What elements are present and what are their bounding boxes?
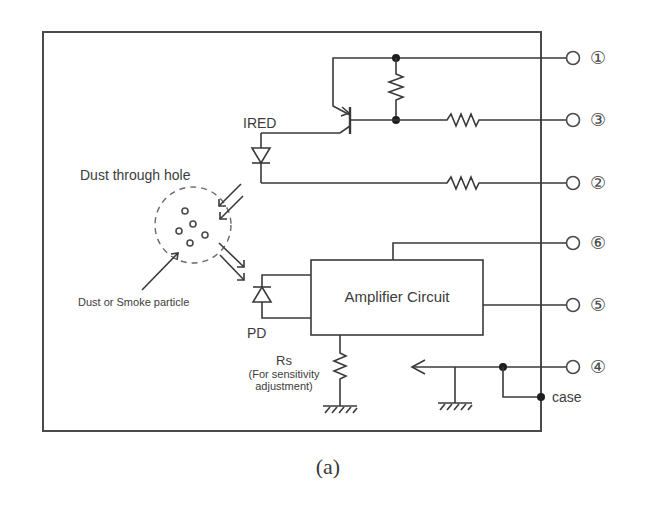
amplifier-label: Amplifier Circuit xyxy=(344,288,450,305)
particle-icon xyxy=(176,228,182,234)
terminal-pin-1[interactable] xyxy=(567,52,580,65)
rs-note-line1: (For sensitivity xyxy=(249,368,320,380)
light-in-arrow-icon xyxy=(219,184,243,219)
rs-note-line2: adjustment) xyxy=(255,380,312,392)
terminal-pin-4[interactable] xyxy=(567,361,580,374)
terminals: ① ③ ② ⑥ ⑤ ④ xyxy=(567,47,607,377)
ground-icon xyxy=(438,403,472,410)
particle-icon xyxy=(182,208,188,214)
particle-pointer-arrow-icon xyxy=(142,253,178,290)
terminal-pin-5[interactable] xyxy=(567,299,580,312)
pin-2-label: ② xyxy=(590,172,606,193)
ired-diode-icon xyxy=(252,133,270,183)
amplifier-section: Amplifier Circuit PD Rs (For sensitivity… xyxy=(247,243,566,413)
ired-label: IRED xyxy=(243,115,276,131)
figure-caption: (a) xyxy=(316,454,340,479)
particle-label: Dust or Smoke particle xyxy=(78,296,189,308)
ground-case-section: case xyxy=(412,360,582,410)
pd-label: PD xyxy=(247,325,266,341)
particle-icon xyxy=(190,221,196,227)
particle-icon xyxy=(202,232,208,238)
terminal-pin-2[interactable] xyxy=(567,177,580,190)
circuit-diagram: IRED Dust through hole Dust or Smoke xyxy=(0,0,657,511)
pin1-wire xyxy=(333,58,566,84)
pin-5-label: ⑤ xyxy=(590,294,606,315)
pin-4-label: ④ xyxy=(590,356,606,377)
rs-label: Rs xyxy=(276,353,292,368)
terminal-pin-6[interactable] xyxy=(567,237,580,250)
case-wire xyxy=(503,367,541,397)
pin-6-label: ⑥ xyxy=(590,232,606,253)
particle-icon xyxy=(187,240,193,246)
terminal-pin-3[interactable] xyxy=(567,114,580,127)
pin-1-label: ① xyxy=(590,47,606,68)
dust-hole-section: Dust through hole Dust or Smoke particle xyxy=(78,167,244,308)
dust-hole-label: Dust through hole xyxy=(80,167,191,183)
rs-resistor-icon xyxy=(334,335,346,406)
pin-3-label: ③ xyxy=(590,109,606,130)
photodiode-icon xyxy=(253,275,311,318)
case-label: case xyxy=(552,389,582,405)
node-dot-case xyxy=(537,393,545,401)
resistor-pin2-icon xyxy=(261,177,566,189)
transistor-section: IRED xyxy=(243,54,566,189)
ground-icon xyxy=(323,406,357,413)
resistor-pin3-icon xyxy=(350,114,566,126)
resistor-vertical-icon xyxy=(389,58,403,120)
